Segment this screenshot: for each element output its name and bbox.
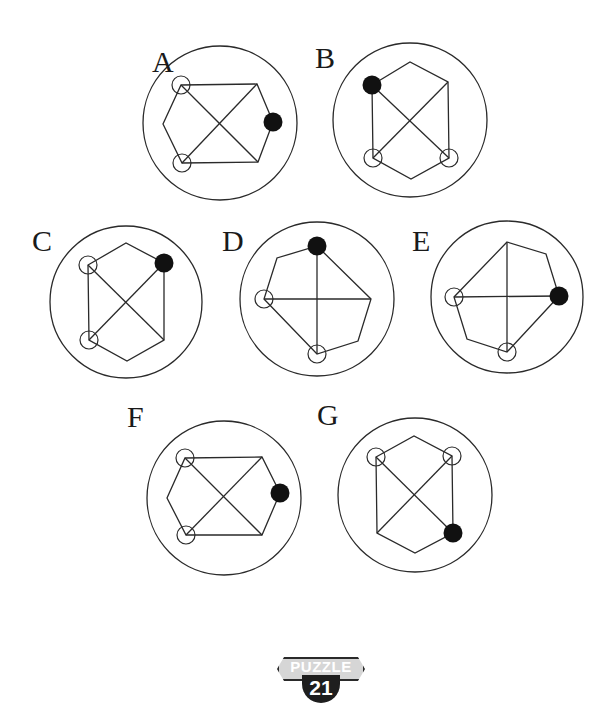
option-label-e: E [412, 226, 430, 256]
option-f-figure[interactable] [147, 421, 301, 575]
puzzle-page: ABCDEFG PUZZLE 21 [0, 0, 606, 709]
option-label-a: A [152, 47, 174, 77]
filled-node-icon [155, 254, 174, 273]
filled-node-icon [550, 287, 569, 306]
puzzle-figures [0, 0, 606, 709]
option-label-c: C [32, 226, 52, 256]
option-b-figure[interactable] [333, 43, 487, 197]
filled-node-icon [264, 113, 283, 132]
diagonal-line [454, 296, 559, 297]
puzzle-number-tab: 21 [302, 675, 340, 703]
option-c-figure[interactable] [50, 226, 202, 378]
filled-node-icon [271, 484, 290, 503]
puzzle-number: 21 [302, 676, 340, 700]
option-label-b: B [315, 43, 335, 73]
diagonal-line [182, 84, 257, 163]
option-label-d: D [222, 226, 244, 256]
filled-node-icon [363, 76, 382, 95]
filled-node-icon [308, 237, 327, 256]
option-d-figure[interactable] [240, 222, 394, 376]
puzzle-badge: PUZZLE 21 [277, 657, 367, 705]
hexagon-outline [163, 84, 273, 163]
option-label-g: G [317, 400, 339, 430]
option-e-figure[interactable] [431, 221, 583, 373]
filled-node-icon [444, 524, 463, 543]
option-g-figure[interactable] [338, 418, 492, 572]
option-label-f: F [127, 402, 144, 432]
puzzle-label: PUZZLE [277, 658, 365, 675]
